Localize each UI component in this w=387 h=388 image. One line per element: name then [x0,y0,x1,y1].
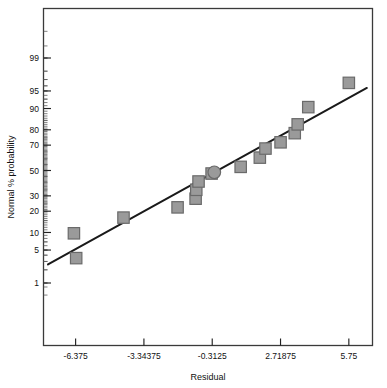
x-tick-label: 5.75 [341,351,358,361]
y-tick-label: 1 [34,278,39,288]
x-axis-title: Residual [190,372,225,382]
x-tick-label: -3.34375 [127,351,161,361]
chart-canvas: 99959080705030201051 -6.375-3.34375-0.31… [0,0,387,388]
data-point-circle [208,166,221,179]
data-point-square [118,212,129,223]
data-point-square [260,143,271,154]
x-tick-label: 2.71875 [265,351,296,361]
y-tick-label: 90 [30,104,40,114]
y-axis-title: Normal % probability [6,135,16,219]
y-tick-label: 5 [34,245,39,255]
y-tick-label: 70 [30,140,40,150]
y-tick-label: 20 [30,206,40,216]
data-point-square [235,161,246,172]
data-point-square [343,77,354,88]
y-tick-label: 30 [30,191,40,201]
y-tick-label: 95 [30,86,40,96]
normal-probability-plot: 99959080705030201051 -6.375-3.34375-0.31… [0,0,387,388]
data-point-square [172,202,183,213]
data-point-square [292,119,303,130]
data-point-square [275,137,286,148]
data-point-square [68,228,79,239]
x-tick-label: -6.375 [64,351,88,361]
data-point-square [193,176,204,187]
data-point-square [70,252,81,263]
y-tick-label: 80 [30,125,40,135]
y-tick-label: 10 [30,228,40,238]
x-tick-label: -0.3125 [198,351,227,361]
y-tick-label: 50 [30,166,40,176]
data-point-square [303,101,314,112]
y-tick-label: 99 [30,53,40,63]
